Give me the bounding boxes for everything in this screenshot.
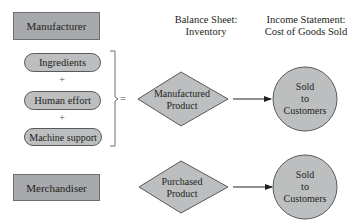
- input-pill-ingredients: Ingredients: [24, 53, 101, 72]
- outcome-line3: Customers: [275, 193, 335, 205]
- input-pill-machine-support: Machine support: [24, 128, 102, 146]
- sold-to-customers-label-merchandiser: Sold to Customers: [275, 169, 335, 205]
- outcome-line3: Customers: [275, 105, 335, 117]
- plus-operator: +: [52, 74, 72, 85]
- equals-operator: =: [120, 92, 126, 104]
- balance-sheet-header: Balance Sheet: Inventory: [150, 14, 262, 38]
- manufactured-product-label: Manufactured Product: [146, 88, 218, 112]
- outcome-line2: to: [275, 93, 335, 105]
- plus-operator: +: [52, 112, 72, 123]
- manufactured-product-line1: Manufactured: [146, 88, 218, 100]
- input-pill-human-effort: Human effort: [24, 91, 101, 110]
- outcome-line2: to: [275, 181, 335, 193]
- outcome-line1: Sold: [275, 169, 335, 181]
- merchandiser-box: Merchandiser: [13, 174, 100, 201]
- outcome-line1: Sold: [275, 81, 335, 93]
- manufacturer-box: Manufacturer: [13, 12, 100, 40]
- balance-sheet-title: Balance Sheet:: [150, 14, 262, 26]
- sold-to-customers-label-manufacturer: Sold to Customers: [275, 81, 335, 117]
- income-statement-header: Income Statement: Cost of Goods Sold: [252, 14, 359, 38]
- purchased-product-label: Purchased Product: [146, 176, 218, 200]
- grouping-bracket: [110, 51, 118, 146]
- income-statement-subtitle: Cost of Goods Sold: [252, 26, 359, 38]
- purchased-product-line1: Purchased: [146, 176, 218, 188]
- manufactured-product-line2: Product: [146, 100, 218, 112]
- balance-sheet-subtitle: Inventory: [150, 26, 262, 38]
- purchased-product-line2: Product: [146, 188, 218, 200]
- income-statement-title: Income Statement:: [252, 14, 359, 26]
